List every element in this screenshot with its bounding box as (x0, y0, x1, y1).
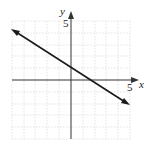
y-axis-label: y (60, 6, 65, 17)
line-arrow-start-icon (11, 29, 20, 36)
x-tick-label: 5 (127, 82, 133, 93)
axes (12, 16, 134, 139)
y-tick-label: 5 (63, 18, 69, 29)
line-arrow-end-icon (121, 98, 130, 105)
graph (0, 0, 149, 146)
x-axis-label: x (139, 79, 144, 90)
